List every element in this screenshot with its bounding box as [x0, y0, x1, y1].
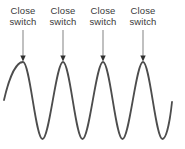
down-arrow [60, 30, 65, 62]
arrow-head [60, 56, 65, 62]
sine-wave-path [4, 62, 172, 139]
label-line-2: switch [119, 16, 167, 27]
down-arrow [20, 30, 25, 62]
figure-canvas: Close switch Close switch Close switch C… [0, 0, 185, 149]
down-arrow [100, 30, 105, 62]
label-line-1: Close [119, 5, 167, 16]
down-arrow [140, 30, 145, 62]
arrow-head [140, 56, 145, 62]
arrow-head [20, 56, 25, 62]
arrow-head [100, 56, 105, 62]
close-switch-label: Close switch [119, 5, 167, 27]
